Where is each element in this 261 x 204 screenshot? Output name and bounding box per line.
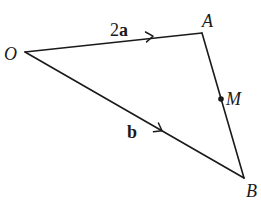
edge-ob bbox=[25, 52, 244, 178]
vector-label-oa-number: 2 bbox=[110, 20, 119, 40]
vector-label-ob: b bbox=[127, 122, 137, 142]
vector-diagram: O A M B 2a b bbox=[0, 0, 261, 204]
vector-label-oa: 2a bbox=[110, 20, 128, 40]
point-m-dot bbox=[218, 96, 224, 102]
vector-label-oa-symbol: a bbox=[119, 20, 128, 40]
label-a: A bbox=[201, 11, 214, 31]
label-b: B bbox=[246, 181, 257, 201]
label-o: O bbox=[4, 44, 17, 64]
label-m: M bbox=[225, 89, 242, 109]
arrow-head-oa-icon bbox=[146, 31, 154, 42]
